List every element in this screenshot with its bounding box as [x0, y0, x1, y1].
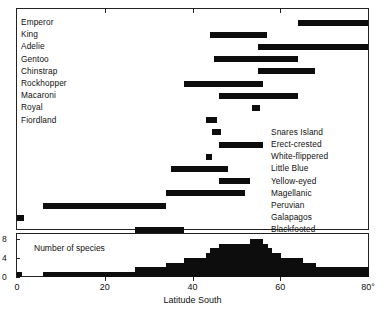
axis-tick	[280, 8, 281, 13]
x-axis-title: Latitude South	[0, 295, 385, 305]
species-label: Snares Island	[271, 126, 323, 138]
chart-figure: EmperorKingAdelieGentooChinstrapRockhopp…	[0, 0, 385, 314]
species-range-row: Fiordland	[0, 114, 385, 126]
axis-tick	[105, 8, 106, 13]
species-label: Erect-crested	[271, 138, 322, 150]
species-label: Fiordland	[21, 114, 57, 126]
species-label: Adelie	[21, 40, 45, 52]
histogram-y-tick-label: 4	[2, 253, 7, 263]
species-label: White-flippered	[271, 150, 328, 162]
species-range-bar	[184, 81, 263, 87]
species-range-bar	[171, 166, 228, 172]
species-label: Yellow-eyed	[271, 175, 317, 187]
species-range-row: Rockhopper	[0, 77, 385, 89]
species-range-row: King	[0, 28, 385, 40]
histogram-y-tick-label: 0	[2, 272, 7, 282]
species-range-bar	[206, 117, 217, 123]
axis-tick-label: 20	[100, 282, 110, 292]
species-range-bar	[258, 68, 315, 74]
species-range-row: White-flippered	[0, 150, 385, 162]
species-range-bar	[135, 227, 183, 233]
axis-tick	[193, 8, 194, 13]
histogram-y-tick	[16, 258, 20, 259]
species-label: Macaroni	[21, 89, 56, 101]
histogram-caption: Number of species	[34, 243, 105, 253]
species-range-row: Royal	[0, 101, 385, 113]
species-range-bar	[219, 93, 298, 99]
species-range-row: Galapagos	[0, 211, 385, 223]
species-range-row: Gentoo	[0, 53, 385, 65]
species-label: Little Blue	[271, 162, 309, 174]
species-range-bar	[206, 154, 213, 160]
species-label: Royal	[21, 101, 43, 113]
species-range-bar	[43, 203, 166, 209]
species-label: Emperor	[21, 16, 54, 28]
species-range-bar	[219, 178, 250, 184]
axis-tick	[193, 277, 194, 281]
species-range-bar	[219, 142, 263, 148]
species-range-bar	[166, 190, 245, 196]
species-range-row: Magellanic	[0, 187, 385, 199]
species-range-bar	[210, 32, 267, 38]
axis-tick-label: 0	[14, 282, 19, 292]
histogram-bars	[17, 234, 370, 277]
species-range-row: Snares Island	[0, 126, 385, 138]
species-range-bar	[214, 56, 297, 62]
species-range-row: Little Blue	[0, 162, 385, 174]
species-range-row: Peruvian	[0, 199, 385, 211]
species-label: Rockhopper	[21, 77, 67, 89]
species-range-bar	[17, 215, 24, 221]
axis-tick	[105, 277, 106, 281]
species-range-row: Yellow-eyed	[0, 175, 385, 187]
species-label: Gentoo	[21, 53, 49, 65]
species-range-row: Emperor	[0, 16, 385, 28]
species-range-bar	[258, 44, 368, 50]
histogram-y-tick	[16, 239, 20, 240]
histogram-bar	[364, 267, 369, 277]
species-range-bar	[212, 129, 221, 135]
species-range-row: Adelie	[0, 40, 385, 52]
species-range-row: Erect-crested	[0, 138, 385, 150]
species-range-bar	[298, 20, 368, 26]
species-label: Peruvian	[271, 199, 305, 211]
species-label: Chinstrap	[21, 65, 57, 77]
species-label: Magellanic	[271, 187, 312, 199]
species-label: Galapagos	[271, 211, 312, 223]
histogram-panel	[16, 233, 369, 277]
species-range-row: Macaroni	[0, 89, 385, 101]
axis-tick-label: 40	[187, 282, 197, 292]
axis-tick-label: 60	[275, 282, 285, 292]
species-range-bar	[252, 105, 261, 111]
species-label: King	[21, 28, 38, 40]
histogram-y-tick	[16, 277, 20, 278]
axis-tick	[280, 277, 281, 281]
histogram-y-tick-label: 8	[2, 234, 7, 244]
axis-tick-label: 80°	[361, 282, 375, 292]
species-range-row: Chinstrap	[0, 65, 385, 77]
